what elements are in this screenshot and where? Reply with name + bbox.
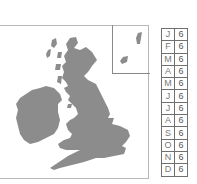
value-cell: 6 — [175, 127, 188, 139]
table-row: D6 — [162, 164, 188, 176]
month-cell: M — [162, 53, 175, 65]
month-cell: J — [162, 29, 175, 41]
table-row: A6 — [162, 115, 188, 127]
monthly-values-table: J6 F6 M6 A6 M6 J6 J6 A6 S6 O6 N6 D6 — [161, 28, 188, 177]
table-row: J6 — [162, 90, 188, 102]
table-row: N6 — [162, 151, 188, 163]
month-cell: O — [162, 139, 175, 151]
hebrides-islands-2 — [46, 49, 51, 58]
month-cell: M — [162, 78, 175, 90]
orkney-islands — [120, 56, 128, 64]
value-cell: 6 — [175, 151, 188, 163]
value-cell: 6 — [175, 139, 188, 151]
skye-island — [57, 52, 62, 58]
month-cell: J — [162, 102, 175, 114]
islay-island — [57, 76, 62, 84]
table-row: M6 — [162, 78, 188, 90]
isle-of-man — [67, 104, 72, 108]
great-britain-landmass — [50, 37, 130, 170]
table-row: J6 — [162, 29, 188, 41]
month-cell: D — [162, 164, 175, 176]
ireland-landmass — [16, 86, 62, 144]
value-cell: 6 — [175, 164, 188, 176]
month-cell: J — [162, 90, 175, 102]
table-row: O6 — [162, 139, 188, 151]
hebrides-islands — [51, 38, 57, 48]
value-cell: 6 — [175, 53, 188, 65]
month-cell: S — [162, 127, 175, 139]
value-cell: 6 — [175, 78, 188, 90]
table-row: S6 — [162, 127, 188, 139]
table-row: J6 — [162, 102, 188, 114]
month-cell: A — [162, 65, 175, 77]
table-row: F6 — [162, 41, 188, 53]
month-cell: A — [162, 115, 175, 127]
value-cell: 6 — [175, 102, 188, 114]
shetland-islands — [136, 32, 142, 44]
value-cell: 6 — [175, 115, 188, 127]
table-row: A6 — [162, 65, 188, 77]
mull-island — [55, 64, 61, 70]
value-cell: 6 — [175, 41, 188, 53]
value-cell: 6 — [175, 65, 188, 77]
month-cell: F — [162, 41, 175, 53]
month-cell: N — [162, 151, 175, 163]
table-row: M6 — [162, 53, 188, 65]
value-cell: 6 — [175, 29, 188, 41]
value-cell: 6 — [175, 90, 188, 102]
